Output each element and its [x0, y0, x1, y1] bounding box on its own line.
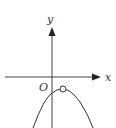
open-point	[60, 86, 66, 92]
origin-label: O	[39, 81, 48, 94]
y-axis-arrow-icon	[49, 27, 56, 36]
coordinate-diagram: x y O	[0, 0, 116, 128]
parabola-curve	[33, 89, 93, 128]
x-axis-arrow-icon	[92, 74, 101, 81]
x-axis-label: x	[105, 71, 112, 84]
y-axis-label: y	[46, 13, 54, 26]
